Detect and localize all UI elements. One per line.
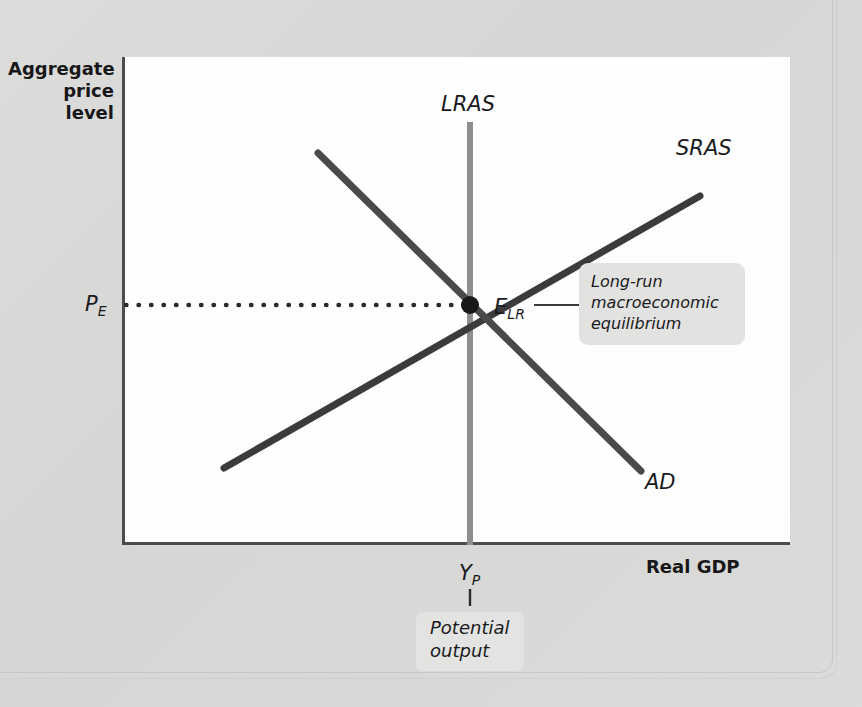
equilibrium-point-label-sub: LR bbox=[507, 306, 525, 322]
equilibrium-price-label-sub: E bbox=[98, 303, 107, 319]
potential-output-label-sub: P bbox=[472, 572, 481, 588]
y-axis-title-line-2: price bbox=[8, 80, 114, 102]
sras-curve-label: SRAS bbox=[676, 136, 732, 160]
potential-output-label-main: Y bbox=[459, 561, 472, 585]
potential-output-label: YP bbox=[459, 561, 480, 588]
y-axis-title-line-3: level bbox=[8, 102, 114, 124]
callout-line-3: equilibrium bbox=[591, 314, 734, 335]
potential-output-line-2: output bbox=[430, 639, 510, 662]
equilibrium-price-label-main: P bbox=[85, 292, 98, 316]
potential-output-callout: Potential output bbox=[416, 612, 524, 671]
y-axis-title-line-1: Aggregate bbox=[8, 58, 114, 80]
figure-page: Aggregate price level Real GDP LRAS SRAS… bbox=[0, 0, 862, 707]
callout-line-1: Long-run bbox=[591, 272, 734, 293]
ad-curve-label: AD bbox=[645, 470, 676, 494]
equilibrium-callout-box: Long-run macroeconomic equilibrium bbox=[579, 263, 745, 345]
equilibrium-point-label-main: E bbox=[494, 295, 507, 319]
equilibrium-price-label: PE bbox=[85, 292, 107, 319]
y-axis-title: Aggregate price level bbox=[8, 58, 114, 124]
equilibrium-point-label: ELR bbox=[494, 295, 525, 322]
lras-curve-label: LRAS bbox=[441, 92, 495, 116]
callout-line-2: macroeconomic bbox=[591, 293, 734, 314]
potential-output-line-1: Potential bbox=[430, 616, 510, 639]
x-axis-title: Real GDP bbox=[646, 556, 740, 578]
